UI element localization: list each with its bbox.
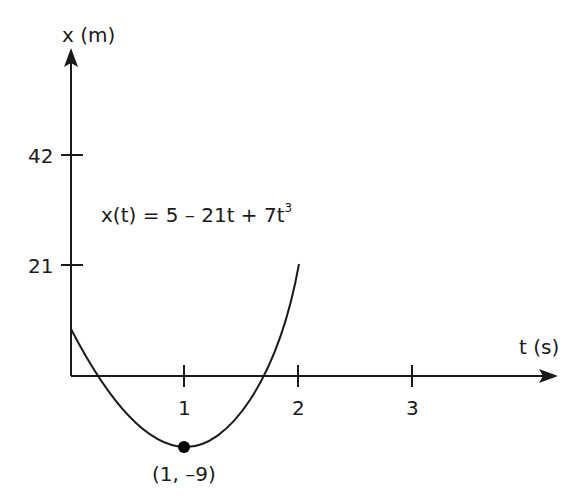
x-tick-label-2: 2	[292, 398, 305, 418]
y-tick-label-42: 42	[28, 146, 53, 166]
x-tick-label-3: 3	[406, 398, 419, 418]
x-tick-label-1: 1	[178, 398, 191, 418]
x-axis-label: t (s)	[519, 337, 559, 357]
y-tick-label-21: 21	[28, 256, 53, 276]
plot-canvas	[0, 0, 581, 503]
min-point-label: (1, –9)	[152, 464, 216, 484]
y-axis-label: x (m)	[62, 25, 115, 45]
equation-label: x(t) = 5 – 21t + 7t3	[101, 205, 292, 225]
min-point-marker	[178, 441, 190, 453]
